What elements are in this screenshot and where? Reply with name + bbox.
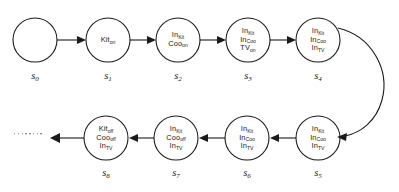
- node-label-s8: Kitoff Coooff InTV: [96, 125, 115, 151]
- arrowhead-s2-s3: [217, 36, 226, 44]
- state-name-s2: s2: [174, 70, 182, 81]
- node-label-s6: InKit InCoo InTV: [239, 125, 255, 151]
- state-name-s5: s5: [314, 167, 322, 178]
- state-transition-diagram: Kiton InKit Cooon InKit InCoo TVon InKit…: [0, 0, 399, 192]
- state-name-s0: s0: [31, 70, 39, 81]
- node-s0[interactable]: [13, 18, 57, 62]
- state-name-s8: s8: [102, 167, 110, 178]
- state-name-s6: s6: [243, 167, 251, 178]
- node-label-s5: InKit InCoo InTV: [310, 125, 326, 151]
- state-name-s3: s3: [244, 70, 252, 81]
- arrowhead-s8-continuation: [50, 133, 60, 143]
- node-label-s4: InKit InCoo InTV: [310, 27, 326, 53]
- arrowhead-s5-s6: [270, 134, 279, 142]
- edge-s4-s5: [338, 28, 384, 136]
- continuation-ellipsis-icon: [14, 133, 42, 134]
- arrowhead-s7-s8: [129, 134, 138, 142]
- state-name-s4: s4: [314, 70, 322, 81]
- arrowhead-s0-s1: [77, 36, 86, 44]
- node-label-s7: InKit Coooff InTV: [166, 125, 185, 151]
- node-label-s2: InKit Cooon: [168, 31, 188, 48]
- graph-canvas: [0, 0, 399, 192]
- arrowhead-s3-s4: [287, 36, 296, 44]
- arrowhead-s6-s7: [199, 134, 208, 142]
- state-name-s1: s1: [104, 70, 112, 81]
- arrowhead-s1-s2: [147, 36, 156, 44]
- node-label-s1: Kiton: [101, 36, 116, 45]
- state-name-s7: s7: [172, 167, 180, 178]
- node-label-s3: InKit InCoo TVon: [240, 27, 256, 53]
